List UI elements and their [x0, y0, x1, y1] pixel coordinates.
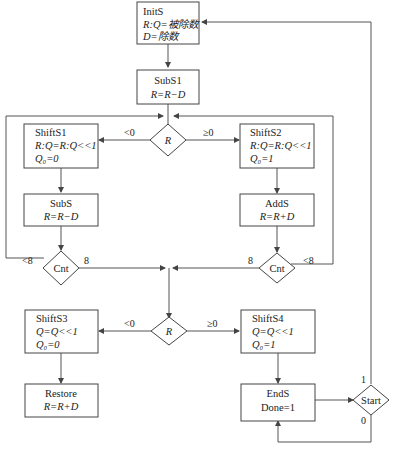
svg-text:Cnt: Cnt	[53, 263, 68, 274]
svg-text:8: 8	[248, 255, 253, 266]
svg-text:R=R+D: R=R+D	[259, 211, 295, 222]
svg-text:Cnt: Cnt	[269, 263, 284, 274]
svg-text:AddS: AddS	[265, 198, 289, 209]
node-shifts4: ShiftS4 Q=Q<<1 Q₀=1	[241, 310, 315, 353]
svg-text:R=R−D: R=R−D	[150, 89, 186, 100]
node-shifts2: ShiftS2 R:Q=R:Q<<1 Q₀=1	[240, 124, 314, 168]
edge-labels: <0 ≥0 <8 8 8 <8 <0 ≥0 1 0	[22, 127, 366, 426]
decision-cnt-left: Cnt	[43, 251, 79, 285]
svg-text:ShiftS1: ShiftS1	[35, 127, 67, 138]
svg-text:ShiftS4: ShiftS4	[252, 313, 284, 324]
svg-text:<8: <8	[303, 255, 314, 266]
svg-text:1: 1	[361, 374, 366, 385]
svg-text:Restore: Restore	[45, 388, 77, 399]
svg-text:Q=Q<<1: Q=Q<<1	[252, 326, 294, 337]
svg-text:R: R	[165, 326, 173, 337]
node-shifts3: ShiftS3 Q=Q<<1 Q₀=0	[25, 310, 98, 353]
svg-text:R:Q=R:Q<<1: R:Q=R:Q<<1	[249, 140, 312, 151]
node-title: InitS	[143, 6, 164, 17]
svg-text:D=除数: D=除数	[142, 31, 180, 42]
svg-text:SubS1: SubS1	[154, 75, 181, 86]
decision-r2: R	[151, 317, 187, 345]
svg-text:Q=Q<<1: Q=Q<<1	[36, 326, 78, 337]
svg-text:Start: Start	[361, 395, 381, 406]
svg-text:Q₀=0: Q₀=0	[35, 153, 59, 164]
svg-text:8: 8	[84, 255, 89, 266]
decision-cnt-right: Cnt	[259, 253, 295, 283]
svg-text:R=R+D: R=R+D	[43, 401, 79, 412]
svg-text:ShiftS2: ShiftS2	[250, 127, 282, 138]
svg-text:<8: <8	[22, 255, 33, 266]
node-ends: EndS Done=1	[241, 384, 315, 421]
svg-text:<0: <0	[124, 127, 135, 138]
flowchart: InitS R:Q=被除数 D=除数 SubS1 R=R−D R ShiftS1…	[0, 0, 393, 449]
svg-text:0: 0	[361, 415, 366, 426]
node-inits: InitS R:Q=被除数 D=除数	[137, 2, 200, 44]
node-shifts1: ShiftS1 R:Q=R:Q<<1 Q₀=0	[24, 124, 98, 168]
svg-text:≥0: ≥0	[207, 318, 218, 329]
node-adds: AddS R=R+D	[240, 194, 314, 226]
svg-text:Done=1: Done=1	[261, 402, 295, 413]
svg-text:R:Q=R:Q<<1: R:Q=R:Q<<1	[34, 140, 97, 151]
svg-text:R=R−D: R=R−D	[43, 211, 79, 222]
svg-text:Q₀=1: Q₀=1	[250, 153, 274, 164]
decision-r1: R	[150, 124, 186, 156]
svg-text:Q₀=1: Q₀=1	[252, 339, 276, 350]
svg-text:≥0: ≥0	[203, 127, 214, 138]
node-subs1: SubS1 R=R−D	[137, 70, 199, 104]
decision-start: Start	[353, 385, 389, 415]
node-subs: SubS R=R−D	[24, 194, 98, 226]
svg-text:R: R	[164, 135, 172, 146]
svg-text:Q₀=0: Q₀=0	[36, 339, 60, 350]
node-restore: Restore R=R+D	[25, 384, 98, 417]
svg-text:EndS: EndS	[267, 388, 290, 399]
svg-text:<0: <0	[124, 318, 135, 329]
svg-text:ShiftS3: ShiftS3	[36, 313, 68, 324]
svg-text:R:Q=被除数: R:Q=被除数	[142, 19, 200, 30]
svg-text:SubS: SubS	[50, 198, 72, 209]
